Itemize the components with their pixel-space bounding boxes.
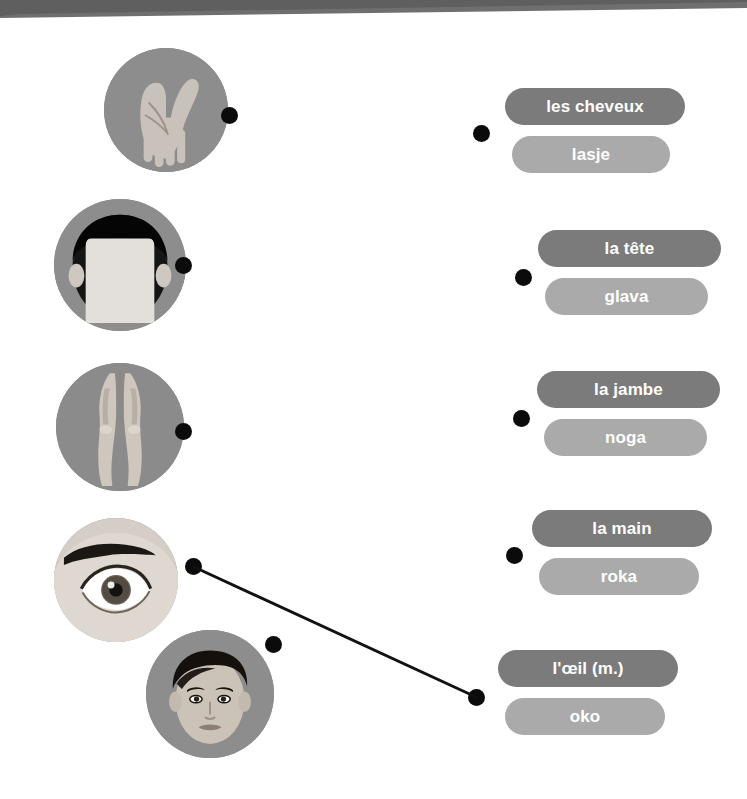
answer-translation-lasje[interactable]: lasje: [512, 136, 670, 173]
dot-answer-jambe[interactable]: [513, 410, 530, 427]
page-scan-band: [0, 0, 747, 22]
dot-picture-legs[interactable]: [175, 423, 192, 440]
dot-picture-head[interactable]: [265, 636, 282, 653]
matching-worksheet: les cheveux lasje la tête glava la jambe…: [0, 0, 747, 799]
answer-translation-glava[interactable]: glava: [545, 278, 708, 315]
picture-legs[interactable]: [56, 363, 184, 491]
answer-translation-oko[interactable]: oko: [505, 698, 665, 735]
picture-hand[interactable]: [104, 48, 228, 172]
picture-head[interactable]: [146, 630, 274, 758]
dot-picture-hair[interactable]: [175, 257, 192, 274]
dot-answer-cheveux[interactable]: [473, 125, 490, 142]
eye-photo: [54, 518, 178, 642]
answer-french-cheveux[interactable]: les cheveux: [505, 88, 685, 125]
dot-picture-eye[interactable]: [185, 558, 202, 575]
dot-picture-hand[interactable]: [221, 107, 238, 124]
answer-french-main[interactable]: la main: [532, 510, 712, 547]
answer-translation-roka[interactable]: roka: [539, 558, 699, 595]
dot-answer-tete[interactable]: [515, 269, 532, 286]
legs-photo: [56, 363, 184, 491]
picture-eye[interactable]: [54, 518, 178, 642]
head-face-photo: [146, 630, 274, 758]
picture-hair[interactable]: [54, 199, 186, 331]
answer-french-tete[interactable]: la tête: [538, 230, 721, 267]
dot-answer-main[interactable]: [506, 547, 523, 564]
dot-answer-oeil[interactable]: [468, 689, 485, 706]
answer-french-jambe[interactable]: la jambe: [537, 371, 720, 408]
answer-french-oeil[interactable]: l'œil (m.): [498, 650, 678, 687]
hand-palm-photo: [104, 48, 228, 172]
hair-head-photo: [54, 199, 186, 331]
answer-translation-noga[interactable]: noga: [544, 419, 707, 456]
